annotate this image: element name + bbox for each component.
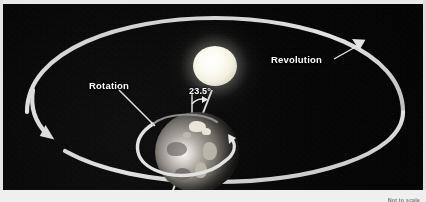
revolution-label: Revolution — [271, 54, 322, 65]
axial-tilt-label: 23.5° — [189, 86, 211, 96]
panel-top-border — [0, 0, 426, 4]
panel-bottom-border — [0, 190, 426, 202]
rotation-label: Rotation — [89, 80, 129, 91]
not-to-scale-footnote: Not to scale — [388, 197, 420, 202]
rotation-ring-front — [137, 124, 225, 175]
space-background-panel: Revolution Rotation 23.5° — [3, 4, 423, 190]
rotation-ring-back — [153, 115, 217, 124]
earth-revolution-rotation-diagram: Revolution Rotation 23.5° Not to scale — [0, 0, 426, 202]
panel-left-border — [0, 0, 3, 202]
rotation-leader-line — [119, 90, 155, 126]
rotation-ring — [3, 4, 423, 190]
